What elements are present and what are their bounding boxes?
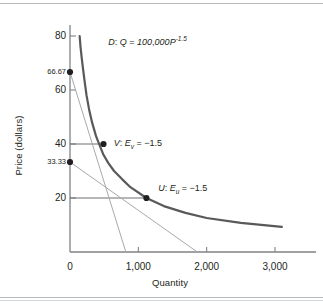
- y-tick-label-33-33: 33.33: [8, 157, 66, 166]
- x-axis-ticks: [138, 247, 275, 252]
- y-tick-label-80: 80: [8, 30, 66, 41]
- marker-point-u: [143, 195, 149, 201]
- point-v-label: V: Ev = −1.5: [114, 138, 162, 150]
- tangent-lines-group: [70, 72, 197, 252]
- axes-group: [70, 25, 316, 252]
- x-tick-label-1000: 1,000: [108, 261, 168, 272]
- marker-y-intercept-u: [67, 159, 73, 165]
- y-tick-label-20: 20: [8, 192, 66, 203]
- data-point-markers: [67, 69, 150, 201]
- x-axis-title: Quantity: [110, 277, 230, 288]
- tangent-line-tangent-U: [70, 162, 197, 252]
- y-tick-label-40: 40: [8, 138, 66, 149]
- y-tick-label-66-67: 66.67: [8, 67, 66, 76]
- point-u-label: U: Eu = −1.5: [158, 183, 207, 195]
- demand-curve-equation: D: Q = 100,000P-1.5: [108, 35, 187, 47]
- tangent-line-tangent-V: [70, 72, 126, 252]
- y-axis-ticks: [70, 36, 76, 198]
- x-tick-label-3000: 3,000: [245, 261, 305, 272]
- marker-y-intercept-v: [67, 69, 73, 75]
- y-tick-label-60: 60: [8, 84, 66, 95]
- marker-point-v: [100, 141, 106, 147]
- x-tick-label-2000: 2,000: [177, 261, 237, 272]
- x-tick-label-0: 0: [40, 261, 100, 272]
- figure-container: Price (dollars) Quantity 8066.67604033.3…: [0, 0, 323, 307]
